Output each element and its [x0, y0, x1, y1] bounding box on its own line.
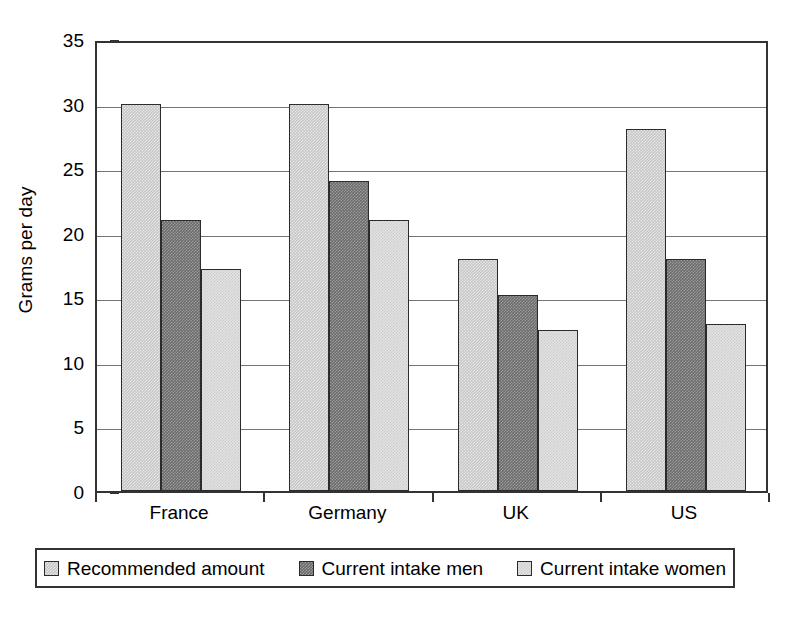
y-axis-tick-label: 20 — [38, 225, 84, 244]
grouped-bar-chart: Grams per day 05101520253035 FranceGerma… — [0, 0, 800, 617]
x-axis-tick — [95, 493, 97, 502]
legend-label-2: Current intake women — [540, 559, 726, 578]
bar-france-series-1 — [161, 220, 201, 491]
x-axis-label-france: France — [95, 503, 263, 522]
y-axis-tick-label: 35 — [38, 31, 84, 50]
x-axis-tick — [600, 493, 602, 502]
legend-entry-0: Recommended amount — [44, 559, 265, 578]
bar-uk-series-2 — [538, 330, 578, 491]
y-axis-tick-label: 5 — [38, 418, 84, 437]
y-axis-tick-label: 10 — [38, 354, 84, 373]
bar-us-series-1 — [666, 259, 706, 491]
bar-us-series-2 — [706, 324, 746, 491]
y-axis-tick-labels: 05101520253035 — [24, 0, 84, 500]
x-axis-tick — [263, 493, 265, 502]
y-axis-tick-label: 25 — [38, 160, 84, 179]
x-axis-label-germany: Germany — [263, 503, 431, 522]
legend-entry-2: Current intake women — [517, 559, 726, 578]
y-axis-tick-label: 30 — [38, 96, 84, 115]
series-0-swatch — [44, 561, 59, 576]
x-axis-tick — [432, 493, 434, 502]
legend-entry-1: Current intake men — [299, 559, 484, 578]
bar-france-series-2 — [201, 269, 241, 491]
y-axis-tick-label: 15 — [38, 289, 84, 308]
x-axis-label-us: US — [600, 503, 768, 522]
series-2-swatch — [517, 561, 532, 576]
x-axis-tick — [768, 493, 770, 502]
y-axis-tick-label: 0 — [38, 483, 84, 502]
bar-france-series-0 — [121, 104, 161, 491]
plot-area — [95, 41, 768, 493]
bar-germany-series-0 — [289, 104, 329, 491]
bar-germany-series-1 — [329, 181, 369, 491]
bar-uk-series-1 — [498, 295, 538, 491]
x-axis-label-uk: UK — [432, 503, 600, 522]
gridline — [97, 107, 766, 108]
series-1-swatch — [299, 561, 314, 576]
legend-label-1: Current intake men — [322, 559, 484, 578]
bar-germany-series-2 — [369, 220, 409, 491]
bar-us-series-0 — [626, 129, 666, 491]
bar-uk-series-0 — [458, 259, 498, 491]
legend-label-0: Recommended amount — [67, 559, 265, 578]
chart-legend: Recommended amountCurrent intake menCurr… — [35, 548, 735, 588]
